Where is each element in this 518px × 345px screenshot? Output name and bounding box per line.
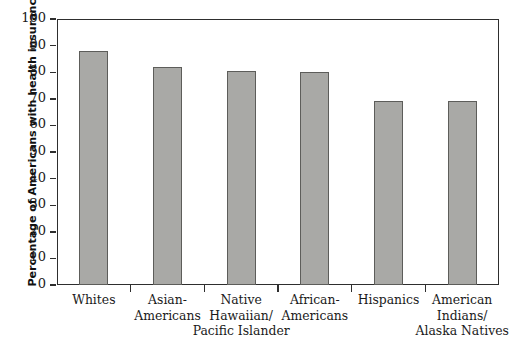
y-tick-label: 40 [0,170,46,185]
x-axis-tick [130,285,131,292]
y-tick-label: 10 [0,249,46,264]
x-axis-tick [425,285,426,292]
y-tick-label: 90 [0,37,46,52]
y-tick-mark [50,258,56,259]
y-tick-label: 0 [0,276,46,291]
y-tick-mark [50,231,56,232]
x-label-line: American [407,292,517,308]
y-tick-mark [50,178,56,179]
bar [374,101,403,285]
y-tick-label: 50 [0,143,46,158]
x-label-line: Indians/ [407,308,517,324]
x-axis-tick [204,285,205,292]
y-tick-label: 70 [0,90,46,105]
y-tick-mark [50,72,56,73]
y-tick-mark [50,18,56,19]
y-tick-mark [50,98,56,99]
y-tick-label: 20 [0,223,46,238]
bar [300,72,329,285]
bar [448,101,477,285]
y-tick-label: 60 [0,116,46,131]
y-tick-label: 30 [0,196,46,211]
y-tick-mark [50,284,56,285]
bar [227,71,256,285]
y-tick-mark [50,205,56,206]
bars-container [57,19,499,285]
x-axis-category-label: AmericanIndians/Alaska Natives [407,292,517,339]
y-tick-mark [50,151,56,152]
x-label-line: Pacific Islander [186,323,296,339]
bar [153,67,182,285]
x-label-line: Alaska Natives [407,323,517,339]
x-axis-tick [277,285,278,292]
y-tick-label: 100 [0,10,46,25]
x-axis-tick [351,285,352,292]
y-tick-label: 80 [0,63,46,78]
bar-chart: Percentage of Americans with health insu… [0,0,518,345]
x-label-line: Americans [260,308,370,324]
y-tick-mark [50,125,56,126]
bar [79,51,108,285]
y-tick-mark [50,45,56,46]
